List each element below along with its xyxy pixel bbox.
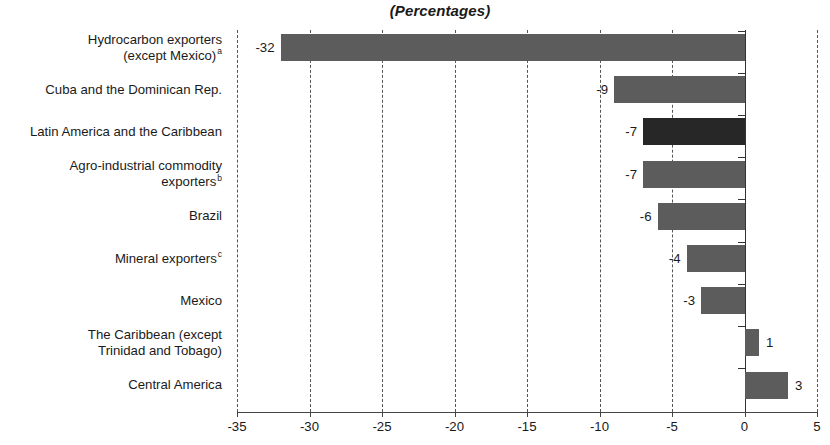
- bar-value-label: -9: [580, 76, 608, 103]
- gridline: [382, 30, 383, 412]
- category-tick-mark: [738, 326, 745, 327]
- x-axis-tick-label: -25: [352, 419, 412, 434]
- footnote-marker: a: [216, 46, 222, 56]
- bar-value-label: -6: [624, 203, 652, 230]
- category-label: The Caribbean (exceptTrinidad and Tobago…: [0, 327, 222, 359]
- x-axis-tick: [382, 412, 383, 417]
- bar[interactable]: [643, 118, 745, 145]
- x-axis-tick: [745, 412, 746, 417]
- bar-chart: (Percentages) Hydrocarbon exporters(exce…: [0, 0, 830, 445]
- bar-value-label: -4: [653, 245, 681, 272]
- x-axis-tick-label: 5: [787, 419, 830, 434]
- bar-value-label: -7: [609, 161, 637, 188]
- gridline: [817, 30, 818, 412]
- bar[interactable]: [658, 203, 745, 230]
- plot-area: -32-9-7-7-6-4-313: [237, 30, 817, 412]
- bar[interactable]: [745, 372, 789, 399]
- x-axis-tick-label: -35: [207, 419, 267, 434]
- x-axis-tick: [527, 412, 528, 417]
- x-axis-tick: [237, 412, 238, 417]
- category-tick-mark: [738, 284, 745, 285]
- category-label: Latin America and the Caribbean: [0, 124, 222, 140]
- category-axis-labels: Hydrocarbon exporters(except Mexico)aCub…: [0, 30, 228, 410]
- footnote-marker: c: [217, 249, 222, 259]
- bar[interactable]: [745, 329, 760, 356]
- bar-value-label: -7: [609, 118, 637, 145]
- gridline: [455, 30, 456, 412]
- category-tick-mark: [738, 368, 745, 369]
- gridline: [527, 30, 528, 412]
- gridline: [310, 30, 311, 412]
- bar-value-label: -3: [667, 287, 695, 314]
- category-tick-mark: [738, 242, 745, 243]
- bar-value-label: 3: [795, 372, 802, 399]
- bar[interactable]: [687, 245, 745, 272]
- footnote-marker: b: [216, 173, 222, 183]
- category-label: Hydrocarbon exporters(except Mexico)a: [0, 32, 222, 64]
- x-axis-tick-label: -30: [280, 419, 340, 434]
- x-axis-tick-label: -5: [642, 419, 702, 434]
- x-axis-tick: [672, 412, 673, 417]
- x-axis-tick-label: -20: [425, 419, 485, 434]
- x-axis-tick-label: 0: [715, 419, 775, 434]
- bar[interactable]: [614, 76, 745, 103]
- x-axis-tick: [817, 412, 818, 417]
- category-label: Mexico: [0, 293, 222, 309]
- x-axis-tick: [600, 412, 601, 417]
- category-tick-mark: [738, 199, 745, 200]
- category-label: Agro-industrial commodityexportersb: [0, 158, 222, 190]
- x-axis-tick: [455, 412, 456, 417]
- category-label: Brazil: [0, 208, 222, 224]
- bar[interactable]: [643, 161, 745, 188]
- category-tick-mark: [738, 73, 745, 74]
- bar[interactable]: [281, 34, 745, 61]
- x-axis-tick-label: -15: [497, 419, 557, 434]
- category-tick-mark: [738, 115, 745, 116]
- gridline: [237, 30, 238, 412]
- category-tick-mark: [738, 31, 745, 32]
- bar-value-label: 1: [766, 329, 773, 356]
- category-label: Cuba and the Dominican Rep.: [0, 82, 222, 98]
- category-tick-mark: [738, 157, 745, 158]
- category-label: Central America: [0, 377, 222, 393]
- bar-value-label: -32: [247, 34, 275, 61]
- category-label: Mineral exportersc: [0, 251, 222, 267]
- x-axis-tick: [310, 412, 311, 417]
- x-axis-tick-label: -10: [570, 419, 630, 434]
- bar[interactable]: [701, 287, 745, 314]
- chart-title: (Percentages): [340, 2, 540, 19]
